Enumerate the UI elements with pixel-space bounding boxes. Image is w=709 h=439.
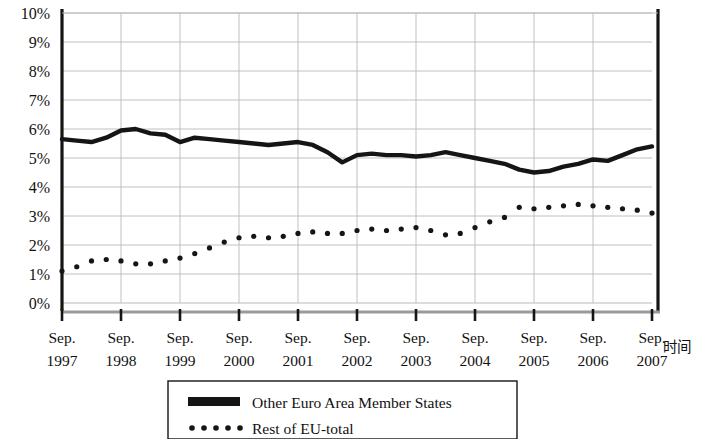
y-axis-tick-label: 1%: [29, 266, 50, 283]
chart-container: 0%1%2%3%4%5%6%7%8%9%10% Sep.1997Sep.1998…: [0, 0, 709, 439]
data-point: [531, 206, 536, 211]
data-point: [177, 255, 182, 260]
data-point: [635, 208, 640, 213]
data-point: [605, 205, 610, 210]
data-point: [59, 269, 64, 274]
data-point: [266, 235, 271, 240]
data-point: [502, 215, 507, 220]
line-chart: 0%1%2%3%4%5%6%7%8%9%10% Sep.1997Sep.1998…: [0, 0, 709, 439]
dotted-bar-icon: [237, 425, 243, 431]
y-axis-tick-label: 6%: [29, 121, 50, 138]
y-axis-tick-label: 9%: [29, 34, 50, 51]
x-axis-tick-label-month: Sep.: [579, 329, 606, 346]
x-axis-tick-label-month: Sep.: [520, 329, 547, 346]
x-axis-tick-label-month: Sep.: [461, 329, 488, 346]
data-point: [295, 231, 300, 236]
x-axis-tick-label-month: Sep.: [343, 329, 370, 346]
x-axis-tick-label-year: 1997: [47, 352, 78, 369]
x-axis-tick-label-year: 2005: [519, 352, 550, 369]
data-point: [236, 235, 241, 240]
data-point: [104, 257, 109, 262]
data-point: [428, 228, 433, 233]
data-point: [561, 203, 566, 208]
data-point: [472, 225, 477, 230]
y-axis-tick-label: 4%: [29, 179, 50, 196]
x-axis-tick-label-month: Sep.: [166, 329, 193, 346]
data-point: [163, 258, 168, 263]
data-point: [89, 258, 94, 263]
data-point: [620, 206, 625, 211]
x-axis-title: 时间: [663, 339, 691, 355]
x-axis-tick-label-year: 1998: [106, 352, 137, 369]
data-point: [207, 245, 212, 250]
data-point: [325, 231, 330, 236]
data-point: [546, 205, 551, 210]
data-point: [222, 240, 227, 245]
data-point: [192, 251, 197, 256]
data-point: [310, 229, 315, 234]
data-point: [354, 228, 359, 233]
y-axis-tick-label: 8%: [29, 63, 50, 80]
data-point: [148, 261, 153, 266]
data-point: [281, 234, 286, 239]
solid-bar-icon: [188, 397, 240, 406]
data-point: [413, 225, 418, 230]
x-axis-tick-label-month: Sep.: [402, 329, 429, 346]
x-axis-tick-label-year: 2003: [401, 352, 432, 369]
data-point: [384, 228, 389, 233]
x-axis-tick-label-month: Sep.: [107, 329, 134, 346]
x-axis-tick-label-month: Sep.: [638, 329, 665, 346]
data-point: [443, 232, 448, 237]
data-point: [369, 226, 374, 231]
legend-label: Rest of EU-total: [252, 420, 354, 437]
dotted-bar-icon: [225, 425, 231, 431]
data-point: [649, 211, 654, 216]
data-point: [399, 226, 404, 231]
x-axis-tick-label-year: 1999: [165, 352, 196, 369]
x-axis-tick-label-year: 2004: [460, 352, 491, 369]
data-point: [133, 261, 138, 266]
x-axis-tick-label-month: Sep.: [225, 329, 252, 346]
dotted-bar-icon: [201, 425, 207, 431]
x-axis-tick-label-year: 2006: [578, 352, 609, 369]
data-point: [487, 219, 492, 224]
y-axis-tick-label: 5%: [29, 150, 50, 167]
y-axis-tick-label: 2%: [29, 237, 50, 254]
y-axis-tick-label: 0%: [29, 295, 50, 312]
chart-background: [0, 0, 709, 439]
data-point: [517, 205, 522, 210]
y-axis-tick-label: 10%: [21, 5, 50, 22]
data-point: [74, 264, 79, 269]
x-axis-tick-label-year: 2001: [283, 352, 314, 369]
dotted-bar-icon: [213, 425, 219, 431]
data-point: [576, 202, 581, 207]
x-axis-tick-label-month: Sep.: [48, 329, 75, 346]
y-axis-tick-label: 3%: [29, 208, 50, 225]
data-point: [458, 231, 463, 236]
x-axis-tick-label-year: 2002: [342, 352, 373, 369]
data-point: [251, 234, 256, 239]
data-point: [340, 231, 345, 236]
dotted-bar-icon: [189, 425, 195, 431]
data-point: [118, 258, 123, 263]
data-point: [590, 203, 595, 208]
legend-label: Other Euro Area Member States: [252, 394, 452, 411]
y-axis-tick-label: 7%: [29, 92, 50, 109]
x-axis-tick-label-year: 2000: [224, 352, 255, 369]
x-axis-tick-label-month: Sep.: [284, 329, 311, 346]
